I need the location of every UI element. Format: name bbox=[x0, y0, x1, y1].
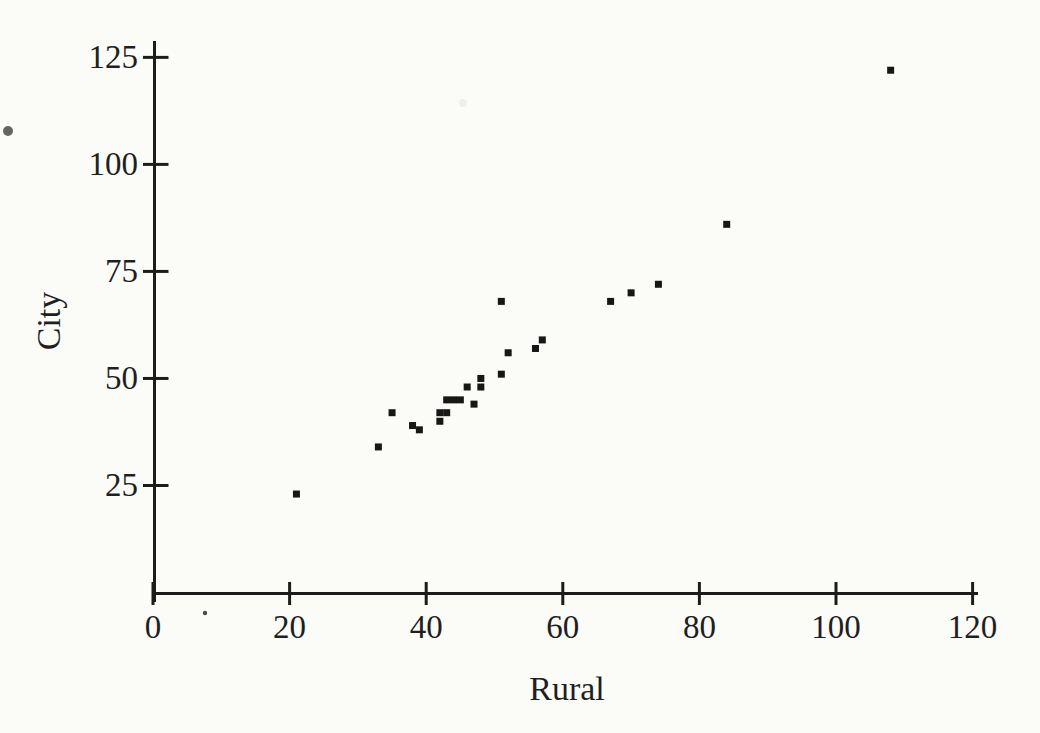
data-point bbox=[607, 298, 614, 305]
x-tick-label: 40 bbox=[410, 609, 443, 645]
y-tick-label: 75 bbox=[105, 253, 138, 289]
data-point bbox=[477, 384, 484, 391]
data-point bbox=[887, 67, 894, 74]
data-point bbox=[498, 371, 505, 378]
y-tick-label: 100 bbox=[89, 146, 139, 182]
data-point bbox=[628, 289, 635, 296]
x-axis-title: Rural bbox=[529, 670, 605, 707]
data-point bbox=[436, 418, 443, 425]
data-point bbox=[723, 221, 730, 228]
scan-speck bbox=[203, 611, 207, 615]
data-point bbox=[655, 281, 662, 288]
scan-speck bbox=[3, 126, 13, 136]
y-tick-label: 25 bbox=[105, 467, 138, 503]
x-axis-ticks: 020406080100120 bbox=[145, 582, 998, 645]
data-point bbox=[293, 491, 300, 498]
data-point bbox=[464, 384, 471, 391]
x-tick-label: 60 bbox=[546, 609, 579, 645]
data-point bbox=[416, 426, 423, 433]
y-tick-label: 125 bbox=[89, 39, 139, 75]
data-point bbox=[539, 336, 546, 343]
data-point bbox=[457, 396, 464, 403]
x-tick-label: 100 bbox=[811, 609, 861, 645]
data-point bbox=[436, 409, 443, 416]
data-point bbox=[443, 409, 450, 416]
x-tick-label: 120 bbox=[948, 609, 998, 645]
data-point bbox=[443, 396, 450, 403]
y-axis-title: City bbox=[30, 292, 67, 351]
x-tick-label: 80 bbox=[683, 609, 716, 645]
data-point bbox=[450, 396, 457, 403]
scanned-figure-page: 255075100125 020406080100120 City Rural bbox=[0, 0, 1040, 733]
data-point bbox=[477, 375, 484, 382]
x-tick-label: 0 bbox=[145, 609, 162, 645]
data-point bbox=[375, 443, 382, 450]
data-point bbox=[409, 422, 416, 429]
data-point bbox=[498, 298, 505, 305]
data-point bbox=[532, 345, 539, 352]
x-tick-label: 20 bbox=[273, 609, 306, 645]
y-axis-ticks: 255075100125 bbox=[89, 39, 169, 503]
scan-speck bbox=[459, 99, 467, 107]
y-tick-label: 50 bbox=[105, 360, 138, 396]
data-point bbox=[505, 349, 512, 356]
data-points bbox=[293, 67, 894, 498]
data-point bbox=[389, 409, 396, 416]
data-point bbox=[471, 401, 478, 408]
scatter-plot: 255075100125 020406080100120 City Rural bbox=[0, 0, 1040, 733]
